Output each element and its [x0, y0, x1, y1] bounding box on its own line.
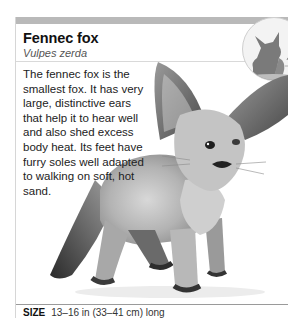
description: The fennec fox is the smallest fox. It h… [23, 67, 153, 198]
size-divider [16, 304, 288, 305]
fact-card: Fennec fox Vulpes zerda [0, 0, 288, 318]
size-label: SIZE [23, 307, 45, 318]
page-title: Fennec fox [23, 30, 99, 46]
header-bar [16, 17, 288, 24]
size-value: 13–16 in (33–41 cm) long [51, 307, 164, 318]
scientific-name: Vulpes zerda [23, 47, 87, 59]
size-info: SIZE13–16 in (33–41 cm) long [23, 307, 165, 318]
